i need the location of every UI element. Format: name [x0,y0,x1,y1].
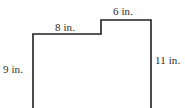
step-polygon-outline [33,20,151,108]
dimension-label-left: 9 in. [3,63,23,75]
dimension-label-top-left: 8 in. [55,21,75,33]
geometry-figure: 8 in. 6 in. 9 in. 11 in. [0,0,185,108]
dimension-label-right: 11 in. [155,54,180,66]
dimension-label-top-right: 6 in. [113,5,133,17]
